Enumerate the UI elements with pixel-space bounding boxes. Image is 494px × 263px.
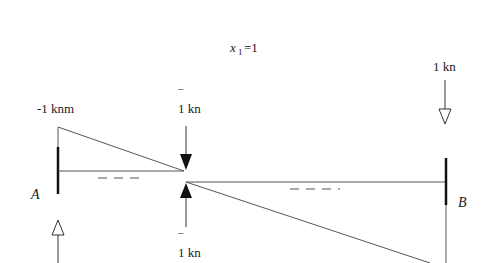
arrow-down-filled-icon [180, 154, 192, 170]
title-sub: 1 [238, 47, 243, 57]
force-bottom-label: 1 kn [178, 245, 201, 260]
force-bottom-bar: ¯ [177, 231, 184, 243]
moment-A-label: -1 knm [37, 101, 74, 116]
reaction-A-arrow-up-icon [52, 220, 64, 235]
arrow-up-filled-icon [180, 183, 192, 198]
force-B-arrow-down-icon [439, 109, 451, 124]
force-top-label: 1 kn [178, 101, 201, 116]
title-eq: =1 [244, 40, 258, 55]
support-A-label: A [30, 187, 40, 202]
force-B-label: 1 kn [433, 59, 456, 74]
moment-line-left [58, 127, 184, 171]
force-top-bar: ¯ [177, 87, 184, 99]
beam-diagram: x 1 =1 -1 knm ¯ 1 kn ¯ 1 kn 1 kn A B [0, 0, 494, 263]
title-var: x [229, 40, 236, 55]
support-B-label: B [458, 195, 467, 210]
diagram-svg: x 1 =1 -1 knm ¯ 1 kn ¯ 1 kn 1 kn A B [0, 0, 494, 263]
moment-line-right [186, 182, 430, 263]
